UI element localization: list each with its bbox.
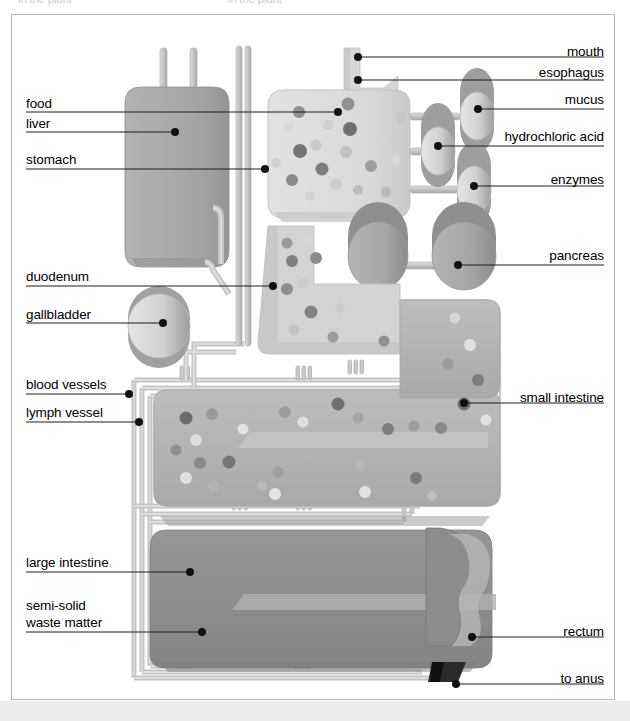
label-liver: liver (26, 116, 50, 132)
label-gallbladder: gallbladder (26, 307, 91, 323)
label-stomach: stomach (26, 152, 76, 168)
label-food: food (26, 96, 52, 112)
label-small-intestine: small intestine (520, 390, 604, 406)
label-mouth: mouth (567, 44, 604, 60)
digestive-factory-illustration (0, 0, 630, 721)
label-semi-solid-waste-line1: semi-solid (26, 598, 86, 614)
label-lymph-vessel: lymph vessel (26, 405, 103, 421)
rectum-section (426, 528, 490, 646)
esophagus-column-rails (236, 46, 251, 346)
liver-tank (125, 48, 229, 294)
label-blood-vessels: blood vessels (26, 377, 107, 393)
label-duodenum: duodenum (26, 269, 89, 285)
label-pancreas: pancreas (549, 248, 604, 264)
label-esophagus: esophagus (539, 65, 604, 81)
pancreas-tanks (348, 202, 496, 290)
label-to-anus: to anus (560, 671, 604, 687)
large-intestine-vessel (150, 528, 496, 672)
label-semi-solid-waste-line2: waste matter (26, 615, 102, 631)
diagram-page: in the plant in the plant (0, 0, 630, 721)
label-rectum: rectum (563, 624, 604, 640)
label-enzymes: enzymes (551, 172, 604, 188)
gallbladder-tank (128, 286, 190, 368)
label-large-intestine: large intestine (26, 555, 109, 571)
label-hydrochloric-acid: hydrochloric acid (504, 129, 604, 145)
label-mucus: mucus (565, 92, 604, 108)
anus-outlet (428, 662, 466, 682)
